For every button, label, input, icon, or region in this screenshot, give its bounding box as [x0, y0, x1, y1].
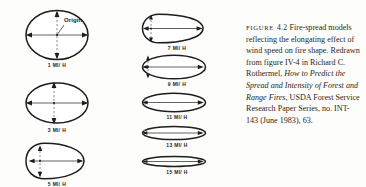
ellipse-15mih-icon — [139, 154, 215, 169]
ellipse-7mih-icon — [139, 12, 215, 45]
speed-label-15mih: 15 MI/ H — [142, 169, 212, 175]
ellipse-11mih-icon — [139, 91, 215, 114]
figure-page: 1 MI/ H Origin 3 MI/ H — [0, 0, 366, 187]
caption-figure-word: Figure — [246, 24, 274, 31]
speed-label-1mih: 1 MI/ H — [26, 62, 89, 68]
ellipse-5mih-icon — [23, 141, 91, 181]
speed-label-11mih: 11 MI/ H — [142, 114, 212, 120]
ellipse-13mih-icon — [139, 124, 215, 142]
diagram-spread-11mih: 11 MI/ H — [139, 91, 215, 120]
ellipse-9mih-icon — [139, 53, 215, 81]
diagram-spread-15mih: 15 MI/ H — [139, 154, 215, 175]
diagram-spread-7mih: 7 MI/ H — [139, 12, 215, 51]
speed-label-7mih: 7 MI/ H — [142, 45, 212, 51]
caption-figure-number: 4.2 — [277, 23, 287, 32]
diagram-spread-3mih: 3 MI/ H — [23, 79, 91, 133]
diagram-spread-5mih: 5 MI/ H — [23, 141, 91, 187]
diagram-spread-9mih: 9 MI/ H — [139, 53, 215, 87]
ellipse-3mih-icon — [23, 79, 91, 127]
speed-label-9mih: 9 MI/ H — [142, 81, 212, 87]
diagram-spread-13mih: 13 MI/ H — [139, 124, 215, 148]
origin-callout-label: Origin — [64, 17, 82, 23]
fire-spread-diagram-panel: 1 MI/ H Origin 3 MI/ H — [0, 0, 240, 187]
figure-caption: Figure4.2 Fire-spread models reflecting … — [246, 22, 360, 126]
speed-label-5mih: 5 MI/ H — [26, 181, 89, 187]
speed-label-13mih: 13 MI/ H — [142, 142, 212, 148]
speed-label-3mih: 3 MI/ H — [26, 127, 89, 133]
